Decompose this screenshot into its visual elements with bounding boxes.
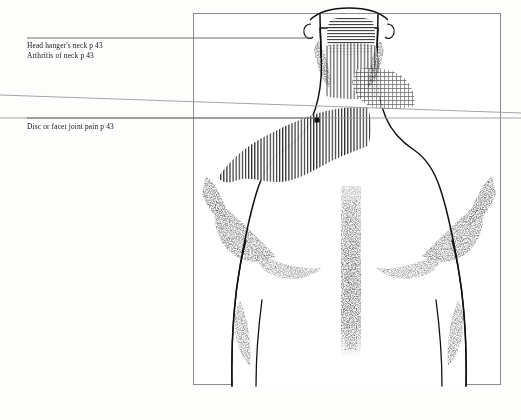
annotation-arthritis-of-neck: Arthritis of neck p 43 — [27, 51, 94, 61]
anatomy-figure-svg — [0, 0, 521, 420]
disc-pain-marker — [315, 118, 320, 123]
spine-core — [345, 200, 357, 350]
annotation-disc-or-facet-joint-pain: Disc or facet joint pain p 43 — [27, 122, 114, 132]
illustration-stage: Head hanger's neck p 43 Arthritis of nec… — [0, 0, 521, 420]
annotation-head-hangers-neck: Head hanger's neck p 43 — [27, 41, 103, 51]
